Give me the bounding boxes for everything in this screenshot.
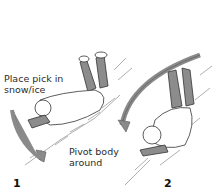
body-2 [140,108,192,157]
self-arrest-diagram: Place pick in snow/ice Pivot body around… [0,0,217,193]
callout-place-pick: Place pick in snow/ice [4,73,63,95]
panel-number-2: 2 [164,177,172,190]
callout-line: snow/ice [4,84,63,95]
panel-number-1: 1 [13,177,21,190]
callout-line: Place pick in [4,73,63,84]
callout-line: Pivot body [69,146,119,157]
legs-2 [168,68,194,108]
body-1 [28,90,104,128]
callout-line: around [69,157,119,168]
legs-1 [79,52,108,92]
callout-pivot-body: Pivot body around [69,146,119,168]
